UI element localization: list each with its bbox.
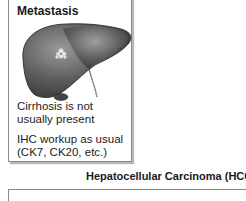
cirrhosis-note: Cirrhosis is not usually present [17, 100, 131, 126]
liver-with-metastatic-lesion-icon [17, 19, 135, 101]
ihc-workup-note: IHC workup as usual (CK7, CK20, etc.) [17, 133, 131, 159]
hcc-panel [8, 189, 246, 201]
metastasis-panel: Metastasis [8, 0, 132, 162]
metastasis-title: Metastasis [17, 4, 78, 18]
hcc-panel-title: Hepatocellular Carcinoma (HCC) [86, 170, 246, 182]
